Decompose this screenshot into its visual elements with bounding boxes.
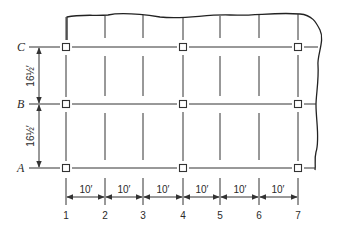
column-label-6: 6 bbox=[256, 210, 262, 221]
dimension-label-23: 10′ bbox=[118, 184, 131, 195]
column-marker-b1 bbox=[63, 101, 70, 108]
column-marker-c4 bbox=[180, 44, 187, 51]
column-marker-b4 bbox=[180, 101, 187, 108]
dimension-label-ab: 16½′ bbox=[25, 125, 36, 146]
column-label-1: 1 bbox=[63, 210, 69, 221]
dimension-label-56: 10′ bbox=[234, 184, 247, 195]
dimension-label-34: 10′ bbox=[157, 184, 170, 195]
column-marker-c1 bbox=[63, 44, 70, 51]
column-marker-b7 bbox=[295, 101, 302, 108]
column-label-4: 4 bbox=[180, 210, 186, 221]
column-marker-a7 bbox=[295, 165, 302, 172]
column-markers bbox=[63, 44, 302, 172]
row-lines bbox=[29, 47, 318, 168]
row-label-a: A bbox=[16, 161, 25, 175]
column-grid-diagram: C B A 16½′ 16½′ 10′ 10′ 10′ 10′ 10′ 10′ … bbox=[0, 0, 337, 229]
column-label-7: 7 bbox=[295, 210, 301, 221]
row-label-c: C bbox=[17, 40, 26, 54]
column-marker-c7 bbox=[295, 44, 302, 51]
dimension-label-12: 10′ bbox=[80, 184, 93, 195]
column-label-3: 3 bbox=[140, 210, 146, 221]
column-lines bbox=[66, 14, 298, 205]
dimension-label-45: 10′ bbox=[196, 184, 209, 195]
column-marker-a4 bbox=[180, 165, 187, 172]
dimension-label-67: 10′ bbox=[272, 184, 285, 195]
column-marker-a1 bbox=[63, 165, 70, 172]
column-label-5: 5 bbox=[217, 210, 223, 221]
column-label-2: 2 bbox=[102, 210, 108, 221]
row-label-b: B bbox=[17, 97, 25, 111]
dimension-label-bc: 16½′ bbox=[25, 65, 36, 86]
